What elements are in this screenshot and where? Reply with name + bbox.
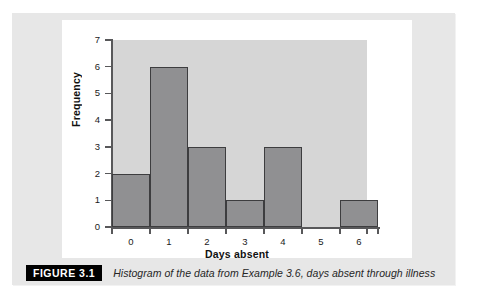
y-tick-label: 0 xyxy=(70,221,100,232)
x-axis-title: Days absent xyxy=(62,248,412,260)
y-tick-label: 2 xyxy=(70,168,100,179)
y-tick-label: 7 xyxy=(70,34,100,45)
y-axis-title: Frequency xyxy=(70,72,84,127)
x-tick xyxy=(339,227,341,234)
x-tick xyxy=(225,227,227,234)
histogram-bar xyxy=(188,147,226,227)
y-tick xyxy=(105,93,112,95)
y-tick xyxy=(105,173,112,175)
x-tick-label: 4 xyxy=(271,236,295,247)
x-tick-label: 2 xyxy=(195,236,219,247)
x-tick-label: 0 xyxy=(119,236,143,247)
figure-screenshot: 01234567 0123456 Frequency Days absent F… xyxy=(0,0,481,307)
y-tick xyxy=(105,119,112,121)
histogram-plot: 01234567 0123456 Frequency Days absent xyxy=(62,20,412,258)
histogram-bar xyxy=(226,200,264,227)
figure-number-badge: FIGURE 3.1 xyxy=(26,265,102,282)
x-tick xyxy=(301,227,303,234)
x-tick-label: 3 xyxy=(233,236,257,247)
y-tick-label: 6 xyxy=(70,61,100,72)
chart-card: 01234567 0123456 Frequency Days absent xyxy=(62,20,412,258)
x-tick-label: 1 xyxy=(157,236,181,247)
x-tick-label: 6 xyxy=(347,236,371,247)
histogram-bar xyxy=(150,67,188,227)
y-tick xyxy=(105,66,112,68)
y-tick-label: 3 xyxy=(70,141,100,152)
figure-panel: 01234567 0123456 Frequency Days absent F… xyxy=(12,13,455,285)
x-tick xyxy=(377,227,379,234)
x-tick xyxy=(149,227,151,234)
y-tick xyxy=(105,200,112,202)
x-tick xyxy=(111,227,113,234)
y-tick xyxy=(105,39,112,41)
x-tick xyxy=(263,227,265,234)
x-tick xyxy=(187,227,189,234)
histogram-bar xyxy=(340,200,378,227)
y-tick-label: 1 xyxy=(70,194,100,205)
figure-caption-text: Histogram of the data from Example 3.6, … xyxy=(113,267,435,279)
x-tick-label: 5 xyxy=(309,236,333,247)
figure-caption: FIGURE 3.1 Histogram of the data from Ex… xyxy=(26,263,446,283)
x-tick xyxy=(366,227,368,234)
y-tick xyxy=(105,146,112,148)
histogram-bar xyxy=(264,147,302,227)
histogram-bar xyxy=(112,174,150,227)
